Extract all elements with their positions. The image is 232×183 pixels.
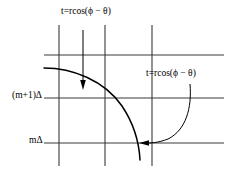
curved-arrow-shaft bbox=[146, 84, 190, 143]
label-y-axis-lower: mΔ bbox=[29, 136, 43, 146]
projection-curve bbox=[44, 68, 140, 160]
label-y-axis-upper: (m+1)Δ bbox=[12, 91, 42, 101]
down-arrow-head bbox=[80, 80, 86, 90]
figure-canvas: t=rcos(ϕ − θ) t=rcos(ϕ − θ) (m+1)Δ mΔ bbox=[0, 0, 232, 183]
curved-arrow-head bbox=[139, 140, 149, 146]
label-right-equation: t=rcos(ϕ − θ) bbox=[146, 69, 196, 79]
label-top-equation: t=rcos(ϕ − θ) bbox=[61, 7, 111, 17]
